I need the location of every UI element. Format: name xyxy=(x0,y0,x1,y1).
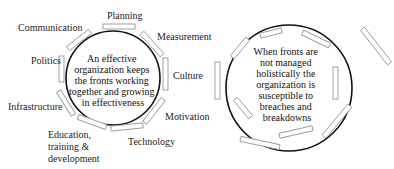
label-culture: Culture xyxy=(173,70,204,81)
diagram-canvas: An effective organization keeps the fron… xyxy=(0,0,394,169)
label-planning: Planning xyxy=(107,10,143,21)
label-communication: Communication xyxy=(18,22,82,33)
right-diagram: When fronts are not managed holistically… xyxy=(215,25,392,151)
scattered-bar xyxy=(360,27,391,65)
label-infrastructure: Infrastructure xyxy=(8,101,63,112)
culture-bar xyxy=(163,58,168,90)
label-measurement: Measurement xyxy=(157,31,212,42)
label-education: Education, training & development xyxy=(48,129,100,164)
label-motivation: Motivation xyxy=(165,111,209,122)
right-center-text: When fronts are not managed holistically… xyxy=(254,46,321,123)
label-politics: Politics xyxy=(31,55,61,66)
planning-bar xyxy=(103,24,135,29)
scattered-bar xyxy=(333,67,338,99)
label-technology: Technology xyxy=(128,136,175,147)
scattered-bar xyxy=(215,62,220,99)
left-diagram: An effective organization keeps the fron… xyxy=(8,10,212,164)
